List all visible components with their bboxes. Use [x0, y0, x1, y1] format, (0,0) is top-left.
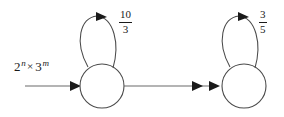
- edge-left-to-right-arrowhead-second: [209, 81, 220, 91]
- state-diagram-figure: 2n×3m 10 3 3 5: [0, 0, 284, 117]
- self-loop-left-path: [80, 16, 116, 68]
- state-right-circle[interactable]: [222, 64, 266, 108]
- diagram-canvas: [0, 0, 284, 117]
- state-left-circle[interactable]: [80, 64, 124, 108]
- self-loop-right-path: [222, 16, 258, 68]
- self-loop-left[interactable]: [80, 12, 116, 68]
- edge-input-arrowhead: [70, 81, 81, 91]
- edge-input-arrow: [25, 81, 81, 91]
- edge-left-to-right-arrow: [124, 81, 220, 91]
- self-loop-right[interactable]: [222, 12, 258, 68]
- edge-left-to-right-arrowhead-first: [192, 81, 203, 91]
